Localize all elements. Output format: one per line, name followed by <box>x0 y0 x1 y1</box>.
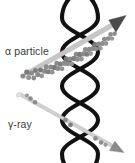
figure-canvas: α particle γ-ray <box>0 0 135 163</box>
radiation-dna-figure: α particle γ-ray <box>0 0 135 163</box>
alpha-particle-label: α particle <box>5 45 49 57</box>
gamma-ray-label: γ-ray <box>8 118 32 130</box>
